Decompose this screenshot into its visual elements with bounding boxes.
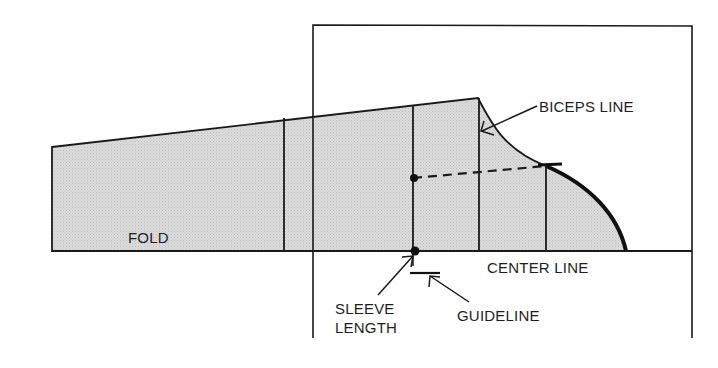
guideline-label: GUIDELINE (457, 307, 540, 324)
sleeve-pattern-diagram: BICEPS LINE FOLD CENTER LINE SLEEVE LENG… (0, 0, 718, 368)
sleeve-length-point (411, 247, 420, 256)
sleeve-length-label-line1: SLEEVE (335, 300, 395, 317)
sleeve-length-arrow (378, 256, 413, 295)
center-line-label: CENTER LINE (487, 259, 588, 276)
guideline-arrow (429, 276, 469, 302)
fold-label: FOLD (128, 229, 169, 246)
sleeve-length-label-line2: LENGTH (335, 319, 397, 336)
biceps-tick (538, 164, 562, 165)
biceps-point (410, 174, 418, 182)
biceps-line-label: BICEPS LINE (539, 98, 634, 115)
